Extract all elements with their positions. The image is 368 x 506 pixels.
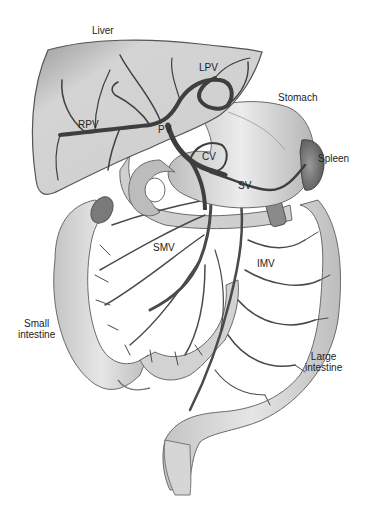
label-large-intestine: Large intestine bbox=[305, 351, 342, 373]
label-liver: Liver bbox=[92, 25, 114, 36]
label-large-intestine-line2: intestine bbox=[305, 362, 342, 373]
label-small-intestine-line1: Small bbox=[18, 318, 55, 329]
label-small-intestine-line2: intestine bbox=[18, 329, 55, 340]
label-stomach: Stomach bbox=[278, 92, 317, 103]
label-spleen: Spleen bbox=[318, 153, 349, 164]
label-large-intestine-line1: Large bbox=[305, 351, 342, 362]
label-rpv: RPV bbox=[78, 119, 99, 130]
portal-venous-system-illustration bbox=[0, 0, 368, 506]
label-pv: PV bbox=[158, 124, 171, 135]
label-lpv: LPV bbox=[199, 62, 218, 73]
label-small-intestine: Small intestine bbox=[18, 318, 55, 340]
duodenum bbox=[129, 160, 175, 216]
label-smv: SMV bbox=[153, 242, 175, 253]
label-sv: SV bbox=[238, 180, 251, 191]
label-imv: IMV bbox=[257, 258, 275, 269]
label-cv: CV bbox=[202, 151, 216, 162]
